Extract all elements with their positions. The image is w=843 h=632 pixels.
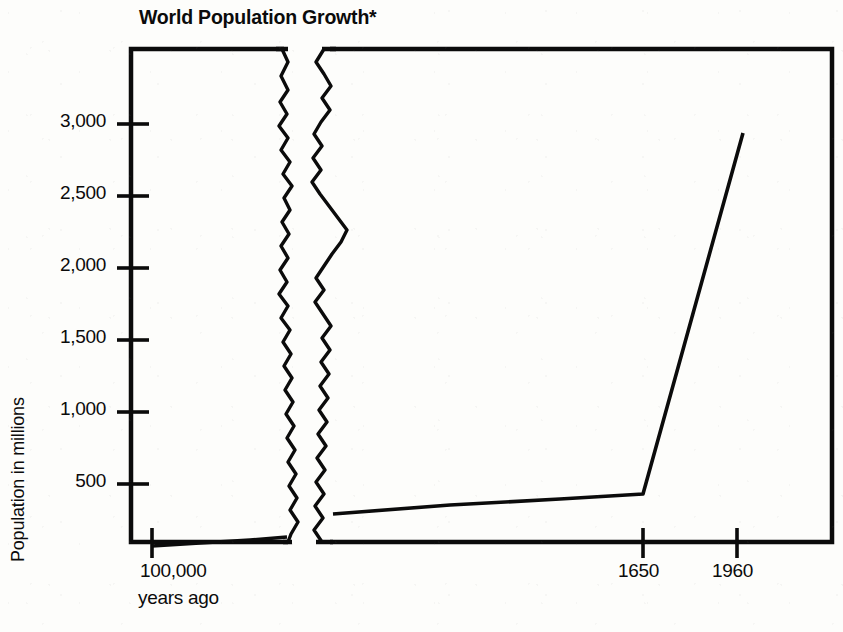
series-historic <box>333 133 743 514</box>
chart-figure: World Population Growth* Population in m… <box>0 0 843 632</box>
chart-plot-svg <box>0 0 843 632</box>
plot-frame <box>131 49 832 542</box>
